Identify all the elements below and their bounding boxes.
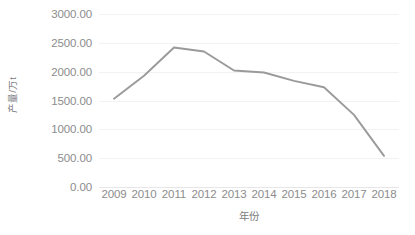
x-axis-tick-label: 2009 [101,188,126,200]
y-axis-tick-labels: 3000.002500.002000.001500.001000.00500.0… [24,0,96,195]
y-axis-tick-label: 1500.00 [51,95,92,107]
plot-area [99,14,399,187]
x-axis-tick-label: 2016 [311,188,336,200]
y-axis-title-label: 产量/万t [5,77,19,113]
x-axis-tick-label: 2014 [251,188,276,200]
x-axis-tick-label: 2015 [281,188,306,200]
x-axis-tick-label: 2018 [371,188,396,200]
y-axis-title: 产量/万t [0,0,24,190]
x-axis-tick-labels: 2009201020112012201320142015201620172018 [99,188,399,206]
y-axis-tick-label: 0.00 [70,181,92,193]
y-axis-tick-label: 2000.00 [51,66,92,78]
x-axis-title: 年份 [99,208,399,223]
x-axis-tick-label: 2017 [341,188,366,200]
x-axis-tick-label: 2011 [162,188,186,200]
x-axis-tick-label: 2010 [131,188,156,200]
line-chart: 产量/万t 3000.002500.002000.001500.001000.0… [0,0,415,235]
series-line-产量 [114,47,384,155]
y-axis-tick-label: 2500.00 [51,37,92,49]
y-axis-tick-label: 3000.00 [51,8,92,20]
y-axis-tick-label: 500.00 [57,152,92,164]
y-axis-tick-label: 1000.00 [51,123,92,135]
series-line-svg [99,14,399,187]
x-axis-tick-label: 2013 [221,188,246,200]
x-axis-tick-label: 2012 [191,188,216,200]
